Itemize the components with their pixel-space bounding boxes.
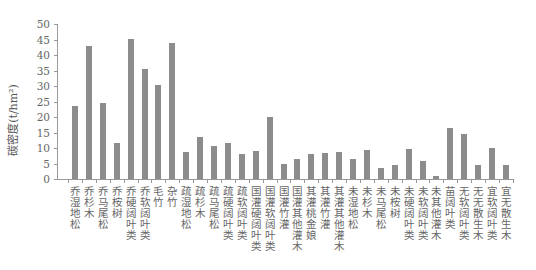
- x-tick-label: 毛竹: [152, 186, 165, 208]
- x-tick-label: 乔硬阔叶类: [124, 186, 137, 241]
- x-tick-label: 未硬阔叶类: [402, 186, 415, 241]
- x-tick-label: 国灌竹灌: [277, 186, 290, 230]
- bar: [72, 106, 78, 179]
- x-tick-label: 其灌其他灌木: [333, 186, 346, 252]
- bar: [350, 159, 356, 179]
- bar: [489, 148, 495, 179]
- bar: [475, 165, 481, 179]
- bar: [281, 164, 287, 180]
- x-tick: [402, 179, 403, 183]
- x-tick: [388, 179, 389, 183]
- y-tick-label: 5: [30, 159, 50, 169]
- x-tick-label: 杂竹: [166, 186, 179, 208]
- bar: [142, 69, 148, 179]
- x-tick-label: 无软阔叶类: [458, 186, 471, 241]
- bar: [183, 152, 189, 179]
- y-tick: [54, 55, 58, 56]
- bar: [364, 150, 370, 179]
- y-tick: [54, 117, 58, 118]
- bar: [378, 168, 384, 179]
- bar: [433, 176, 439, 179]
- x-axis-line: [57, 179, 513, 180]
- x-tick: [429, 179, 430, 183]
- x-tick-label: 乔杉木: [82, 186, 95, 219]
- y-tick-label: 10: [30, 143, 50, 153]
- bar: [114, 143, 120, 179]
- x-tick: [179, 179, 180, 183]
- x-tick: [290, 179, 291, 183]
- bar: [336, 152, 342, 179]
- x-tick: [416, 179, 417, 183]
- x-tick: [207, 179, 208, 183]
- bar: [322, 153, 328, 179]
- x-tick: [485, 179, 486, 183]
- x-tick-label: 未其他灌木: [430, 186, 443, 241]
- bar: [211, 146, 217, 179]
- x-tick: [318, 179, 319, 183]
- x-tick: [68, 179, 69, 183]
- y-tick: [54, 24, 58, 25]
- x-tick: [471, 179, 472, 183]
- y-tick: [54, 86, 58, 87]
- x-tick-label: 乔桉树: [110, 186, 123, 219]
- x-tick-label: 国灌软阔叶类: [263, 186, 276, 252]
- x-tick: [374, 179, 375, 183]
- x-tick-label: 未桉树: [388, 186, 401, 219]
- y-tick: [54, 164, 58, 165]
- bar: [294, 159, 300, 179]
- bar: [267, 117, 273, 179]
- bar: [239, 154, 245, 179]
- x-tick-label: 乔马尾松: [96, 186, 109, 230]
- bar: [155, 85, 161, 179]
- y-tick-label: 20: [30, 112, 50, 122]
- x-tick: [304, 179, 305, 183]
- y-tick-label: 15: [30, 128, 50, 138]
- y-axis-title-text: 碳密度(t/hm²): [4, 84, 20, 156]
- x-tick: [346, 179, 347, 183]
- x-tick: [110, 179, 111, 183]
- x-tick: [360, 179, 361, 183]
- bar-chart: 碳密度(t/hm²) 05101520253035404550 乔湿地松乔杉木乔…: [0, 0, 536, 270]
- bar: [392, 165, 398, 179]
- bar: [197, 137, 203, 179]
- x-tick: [443, 179, 444, 183]
- y-tick-label: 50: [30, 19, 50, 29]
- x-tick-label: 宜软阔叶类: [486, 186, 499, 241]
- y-tick-label: 45: [30, 35, 50, 45]
- y-tick: [54, 40, 58, 41]
- bar: [461, 134, 467, 179]
- bar: [503, 165, 509, 179]
- x-tick-label: 未马尾松: [374, 186, 387, 230]
- y-tick: [54, 102, 58, 103]
- y-tick-label: 25: [30, 97, 50, 107]
- y-tick: [54, 71, 58, 72]
- bar: [86, 46, 92, 179]
- x-tick: [124, 179, 125, 183]
- x-tick-label: 未软阔叶类: [416, 186, 429, 241]
- y-tick-label: 30: [30, 81, 50, 91]
- y-axis-title: 碳密度(t/hm²): [2, 60, 22, 180]
- x-tick-label: 未杉木: [360, 186, 373, 219]
- x-tick: [138, 179, 139, 183]
- bar: [447, 128, 453, 179]
- x-tick: [499, 179, 500, 183]
- x-tick-label: 国灌硬阔叶类: [249, 186, 262, 252]
- x-tick-label: 疏硬阔叶类: [221, 186, 234, 241]
- x-tick: [332, 179, 333, 183]
- bar: [420, 161, 426, 179]
- x-tick: [221, 179, 222, 183]
- x-tick-label: 国灌其他灌木: [291, 186, 304, 252]
- x-tick: [235, 179, 236, 183]
- x-tick-label: 苗阔叶类: [444, 186, 457, 230]
- x-tick: [193, 179, 194, 183]
- bar: [406, 149, 412, 179]
- y-tick: [54, 179, 58, 180]
- x-tick-label: 乔湿地松: [69, 186, 82, 230]
- bar: [253, 151, 259, 179]
- x-tick: [513, 179, 514, 183]
- x-tick-label: 宜无散生木: [499, 186, 512, 241]
- x-tick-label: 其灌竹灌: [319, 186, 332, 230]
- x-tick-label: 乔软阔叶类: [138, 186, 151, 241]
- bar: [128, 39, 134, 179]
- bar: [100, 103, 106, 179]
